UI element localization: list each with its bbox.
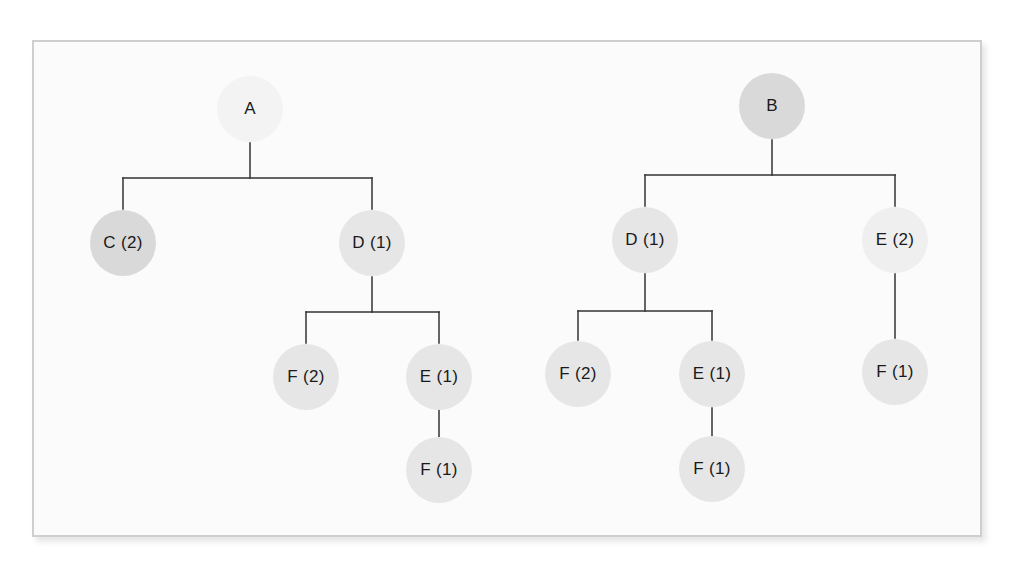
tree-b-node-e1[interactable]: E (1) — [679, 341, 745, 407]
tree-b-node-f1-under-e2[interactable]: F (1) — [862, 339, 928, 405]
tree-a-node-d1[interactable]: D (1) — [339, 210, 405, 276]
tree-b-node-d1[interactable]: D (1) — [612, 207, 678, 273]
tree-a-node-f2[interactable]: F (2) — [273, 344, 339, 410]
tree-a-node-c2[interactable]: C (2) — [90, 210, 156, 276]
tree-a-node-e1[interactable]: E (1) — [406, 344, 472, 410]
tree-b-node-e2[interactable]: E (2) — [862, 207, 928, 273]
tree-a-node-a[interactable]: A — [217, 76, 283, 142]
tree-b-node-f2[interactable]: F (2) — [545, 341, 611, 407]
diagram-frame — [32, 40, 982, 537]
tree-b-node-b[interactable]: B — [739, 73, 805, 139]
tree-a-node-f1[interactable]: F (1) — [406, 437, 472, 503]
tree-b-node-f1-under-e1[interactable]: F (1) — [679, 436, 745, 502]
